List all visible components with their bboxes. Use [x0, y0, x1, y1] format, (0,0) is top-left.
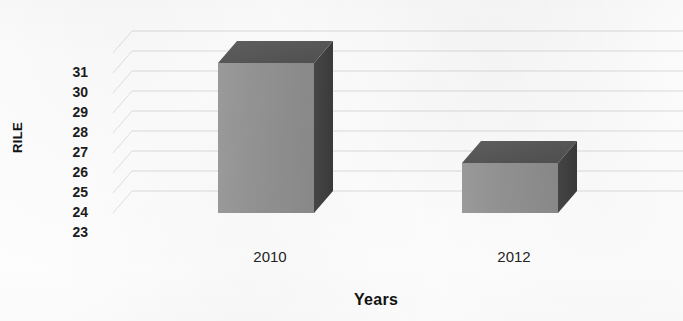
gridline-depth-connector	[113, 151, 132, 173]
x-axis-category-label: 2010	[225, 248, 315, 265]
y-axis-tick-label: 25	[58, 185, 88, 199]
bar-series	[218, 41, 577, 213]
y-axis-tick-label: 29	[58, 105, 88, 119]
gridlines	[113, 31, 683, 213]
bar-top-face	[218, 41, 333, 63]
gridline-depth-connector	[113, 51, 132, 73]
bar-front-face	[218, 63, 314, 213]
gridline-depth-connector	[113, 31, 132, 53]
y-axis-tick-label: 30	[58, 85, 88, 99]
chart-container: RILE 313029282726252423 20102012 Y	[0, 0, 683, 321]
y-axis-tick-label: 26	[58, 165, 88, 179]
y-axis-tick-label: 24	[58, 205, 88, 219]
bar-column	[462, 141, 577, 213]
x-axis-category-label: 2012	[469, 248, 559, 265]
gridline-depth-connector	[113, 111, 132, 133]
y-axis-tick-label: 23	[58, 225, 88, 239]
x-axis-title: Years	[330, 291, 422, 309]
y-axis-title: RILE	[10, 108, 25, 168]
gridline-depth-connector	[113, 191, 132, 213]
bar-column	[218, 41, 333, 213]
y-axis-tick-label: 28	[58, 125, 88, 139]
gridline-depth-connector	[113, 71, 132, 93]
bar-side-face	[314, 41, 333, 213]
bar-top-face	[462, 141, 577, 163]
plot-area	[0, 0, 683, 321]
y-axis-tick-label: 31	[58, 65, 88, 79]
gridline-depth-connector	[113, 171, 132, 193]
y-axis-tick-label: 27	[58, 145, 88, 159]
gridline-depth-connector	[113, 131, 132, 153]
bar-front-face	[462, 163, 558, 213]
gridline-depth-connector	[113, 91, 132, 113]
